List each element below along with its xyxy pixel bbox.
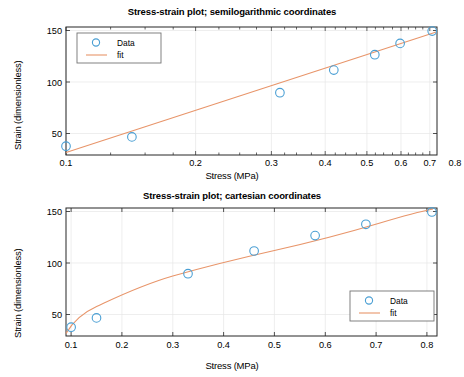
y-tick-label: 150 xyxy=(47,26,62,36)
plot-area-semilog: 150 100 50 0.1 0.2 0.3 0.4 0.5 0.6 0.7 0… xyxy=(0,0,464,188)
x-tick-labels-cartesian: 0.1 0.2 0.3 0.4 0.5 0.6 0.7 0.8 xyxy=(65,340,434,350)
x-tick-label: 0.6 xyxy=(395,158,408,168)
x-tick-label: 0.4 xyxy=(217,340,230,350)
chart-panel-semilog: Stress-strain plot; semilogarithmic coor… xyxy=(0,0,464,188)
x-tick-label: 0.2 xyxy=(116,340,129,350)
legend-label-data: Data xyxy=(390,296,408,306)
x-tick-label: 0.3 xyxy=(265,158,278,168)
legend-cartesian[interactable]: Data fit xyxy=(350,291,434,321)
x-tick-label: 0.8 xyxy=(449,158,462,168)
y-tick-labels-semilog: 150 100 50 xyxy=(47,26,62,139)
x-tick-label: 0.1 xyxy=(60,158,73,168)
x-tick-label: 0.4 xyxy=(319,158,332,168)
plot-area-cartesian: 150 100 50 0.1 0.2 0.3 0.4 0.5 0.6 0.7 0… xyxy=(0,188,464,377)
legend-label-data: Data xyxy=(117,38,135,48)
legend-label-fit: fit xyxy=(117,50,124,60)
x-tick-label: 0.7 xyxy=(423,158,436,168)
x-tick-label: 0.6 xyxy=(319,340,332,350)
legend-label-fit: fit xyxy=(390,308,397,318)
x-tick-label: 0.2 xyxy=(189,158,202,168)
x-tick-label: 0.1 xyxy=(65,340,78,350)
x-tick-label: 0.5 xyxy=(361,158,374,168)
y-tick-label: 50 xyxy=(52,129,62,139)
x-tick-label: 0.3 xyxy=(166,340,179,350)
legend-semilog[interactable]: Data fit xyxy=(77,33,161,63)
x-tick-label: 0.7 xyxy=(370,340,383,350)
x-tick-label: 0.5 xyxy=(268,340,281,350)
y-tick-label: 50 xyxy=(52,310,62,320)
y-tick-label: 100 xyxy=(47,78,62,88)
y-tick-label: 150 xyxy=(47,207,62,217)
matlab-figure-canvas: Stress-strain plot; semilogarithmic coor… xyxy=(0,0,464,377)
y-tick-label: 100 xyxy=(47,259,62,269)
y-tick-labels-cartesian: 150 100 50 xyxy=(47,207,62,320)
chart-panel-cartesian: Stress-strain plot; cartesian coordinate… xyxy=(0,188,464,377)
x-tick-label: 0.8 xyxy=(421,340,434,350)
x-tick-labels-semilog: 0.1 0.2 0.3 0.4 0.5 0.6 0.7 0.8 xyxy=(60,158,462,168)
